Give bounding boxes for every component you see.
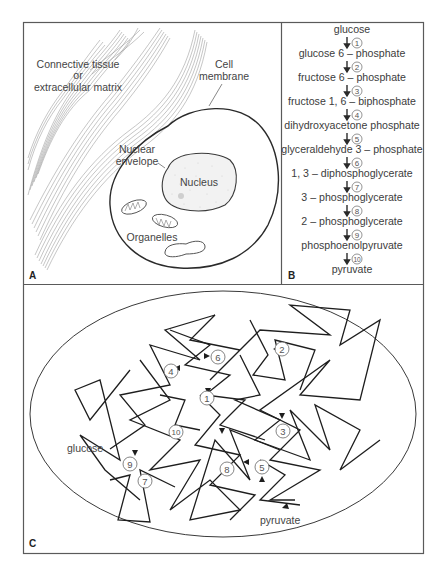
- panel-b: glucose glucose 6 – phosphate fructose 6…: [281, 23, 422, 281]
- step-7: 7: [355, 183, 360, 192]
- enzyme-4: 4: [168, 366, 173, 377]
- metabolite-2: fructose 6 – phosphate: [298, 71, 406, 83]
- random-walk-paths: [75, 305, 380, 522]
- enzyme-3: 3: [280, 426, 285, 437]
- metabolite-7: 3 – phosphoglycerate: [301, 191, 402, 203]
- enzyme-2: 2: [279, 344, 284, 355]
- step-9: 9: [355, 231, 360, 240]
- label-nuclear: Nuclear: [119, 143, 156, 155]
- cell-boundary: [30, 291, 416, 537]
- label-extracellular-matrix: extracellular matrix: [34, 81, 123, 93]
- enzyme-5: 5: [259, 462, 264, 473]
- enzyme-6: 6: [215, 352, 220, 363]
- leader-membrane: [209, 84, 222, 106]
- mitochondrion-1: [120, 197, 149, 217]
- enzyme-10: 10: [172, 428, 181, 437]
- label-envelope: envelope: [116, 155, 159, 167]
- metabolite-3: fructose 1, 6 – biphosphate: [288, 95, 416, 107]
- leader-envelope: [158, 163, 165, 168]
- step-5: 5: [355, 135, 360, 144]
- label-pyruvate: pyruvate: [260, 514, 300, 526]
- metabolite-9: phosphoenolpyruvate: [301, 239, 402, 251]
- metabolite-5: glyceraldehyde 3 – phosphate: [281, 143, 422, 155]
- label-membrane: membrane: [199, 70, 249, 82]
- metabolite-10: pyruvate: [332, 263, 373, 275]
- step-1: 1: [355, 39, 360, 48]
- panel-a: Connective tissue or extracellular matri…: [28, 28, 278, 281]
- metabolite-1: glucose 6 – phosphate: [299, 47, 406, 59]
- step-2: 2: [355, 63, 360, 72]
- metabolite-0: glucose: [334, 23, 371, 35]
- step-3: 3: [355, 87, 360, 96]
- organelle-vesicle: [165, 241, 205, 257]
- step-4: 4: [355, 111, 360, 120]
- panel-letter-a: A: [29, 270, 36, 281]
- label-nucleus: Nucleus: [180, 176, 218, 188]
- enzyme-1: 1: [204, 393, 209, 404]
- panel-letter-c: C: [29, 538, 36, 549]
- enzyme-8: 8: [224, 464, 229, 475]
- enzyme-9: 9: [127, 459, 132, 470]
- panel-c: 1 2 3 4 5 6 7 8 9 10 glucose pyruvate C: [29, 291, 416, 549]
- label-or: or: [73, 69, 83, 81]
- nucleolus: [178, 193, 184, 199]
- metabolite-6: 1, 3 – diphosphoglycerate: [291, 167, 412, 179]
- step-10: 10: [353, 256, 361, 263]
- label-cell: Cell: [215, 58, 233, 70]
- metabolite-8: 2 – phosphoglycerate: [301, 215, 402, 227]
- step-6: 6: [355, 159, 360, 168]
- enzyme-7: 7: [142, 476, 147, 487]
- step-8: 8: [355, 207, 360, 216]
- metabolite-4: dihydroxyacetone phosphate: [284, 119, 420, 131]
- label-glucose: glucose: [67, 442, 103, 454]
- figure: Connective tissue or extracellular matri…: [0, 0, 443, 573]
- mitochondrion-2: [151, 212, 179, 230]
- panel-letter-b: B: [288, 270, 295, 281]
- label-organelles: Organelles: [127, 231, 178, 243]
